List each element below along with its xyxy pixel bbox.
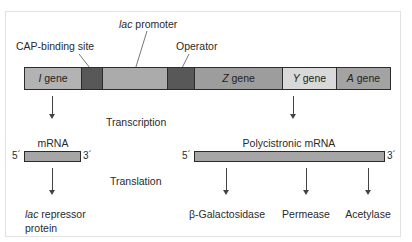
right-transcription-arrow-line xyxy=(293,96,294,115)
i-gene-segment: I gene xyxy=(25,68,82,89)
left-transcription-arrow-icon xyxy=(49,114,55,119)
y-gene-italic: Y xyxy=(293,72,300,84)
operator-segment xyxy=(168,68,195,89)
mrna-label: mRNA xyxy=(38,137,69,149)
acetylase-arrow-icon xyxy=(365,190,371,195)
protein-label: protein xyxy=(25,222,57,234)
left-mrna-strand xyxy=(24,151,81,162)
leader-lines xyxy=(0,0,412,242)
a-gene-segment: A gene xyxy=(337,68,390,89)
y-gene-segment: Y gene xyxy=(283,68,337,89)
left-translation-arrow-line xyxy=(52,168,53,191)
repressor-text: repressor xyxy=(38,208,85,220)
acetylase-label: Acetylase xyxy=(345,208,391,220)
z-gene-segment: Z gene xyxy=(195,68,283,89)
a-gene-text: gene xyxy=(354,72,380,84)
left-transcription-arrow-line xyxy=(52,96,53,115)
lac-repressor-protein-label: lac repressor xyxy=(25,208,86,220)
left-mrna-three-prime: 3´ xyxy=(83,150,92,161)
galactosidase-arrow-line xyxy=(226,168,227,191)
cap-binding-site-segment xyxy=(82,68,103,89)
polycistronic-mrna-label: Polycistronic mRNA xyxy=(243,137,336,149)
right-transcription-arrow-icon xyxy=(290,114,296,119)
acetylase-arrow-line xyxy=(368,168,369,191)
right-mrna-five-prime: 5´ xyxy=(182,150,191,161)
i-gene-text: gene xyxy=(41,72,67,84)
permease-arrow-icon xyxy=(303,190,309,195)
a-gene-italic: A xyxy=(347,72,354,84)
lac-promoter-segment xyxy=(103,68,168,89)
lac-italic-product: lac xyxy=(25,208,38,220)
polycistronic-mrna-strand xyxy=(194,151,385,162)
translation-label: Translation xyxy=(110,175,162,187)
permease-arrow-line xyxy=(306,168,307,191)
z-gene-text: gene xyxy=(229,72,255,84)
lac-operon-gene-bar: I gene Z gene Y gene A gene xyxy=(24,67,391,90)
galactosidase-arrow-icon xyxy=(223,190,229,195)
left-mrna-five-prime: 5´ xyxy=(12,150,21,161)
left-translation-arrow-icon xyxy=(49,190,55,195)
beta-galactosidase-label: β-Galactosidase xyxy=(189,208,265,220)
transcription-label: Transcription xyxy=(106,116,166,128)
y-gene-text: gene xyxy=(300,72,326,84)
right-mrna-three-prime: 3´ xyxy=(387,150,396,161)
permease-label: Permease xyxy=(282,208,330,220)
